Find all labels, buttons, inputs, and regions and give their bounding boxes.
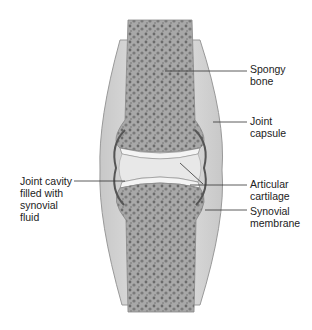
label-articular-cartilage: Articular cartilage	[250, 178, 290, 202]
label-spongy-bone: Spongy bone	[250, 63, 286, 87]
upper-bone	[116, 20, 204, 152]
label-joint-cavity: Joint cavity filled with synovial fluid	[20, 175, 72, 223]
lower-bone	[116, 183, 204, 312]
synovial-joint-diagram: Spongy bone Joint capsule Articular cart…	[0, 0, 312, 330]
label-joint-capsule: Joint capsule	[250, 115, 286, 139]
joint-illustration	[0, 0, 312, 330]
label-synovial-membrane: Synovial membrane	[250, 205, 300, 229]
